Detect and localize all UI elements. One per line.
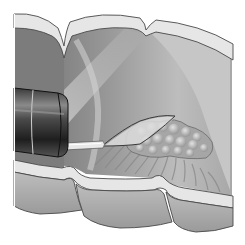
- endoscope: [14, 88, 68, 157]
- medical-illustration: [0, 0, 245, 245]
- left-cut-edge: [14, 14, 15, 214]
- colon-cutaway-drawing: [0, 0, 245, 245]
